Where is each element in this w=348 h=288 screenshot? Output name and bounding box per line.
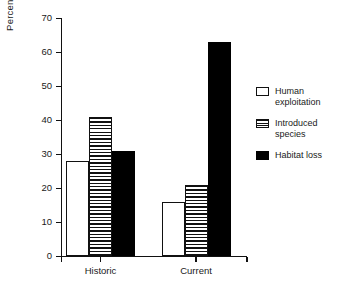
x-axis-tick	[100, 257, 101, 262]
legend-item-introduced-species: Introduced species	[256, 118, 348, 139]
legend-swatch-striped-icon	[256, 119, 269, 128]
bar-current-introduced-species	[185, 185, 208, 256]
chart-legend: Human exploitation Introduced species Ha…	[256, 86, 348, 172]
y-axis-tick-label: 0	[26, 251, 52, 261]
legend-label: Human exploitation	[275, 86, 321, 107]
y-axis-tick-label: 50	[26, 81, 52, 91]
x-axis-end-tick	[61, 257, 62, 262]
legend-swatch-black-icon	[256, 151, 269, 160]
y-axis-tick	[56, 154, 62, 155]
y-axis-tick	[56, 18, 62, 19]
y-axis-tick-label: 10	[26, 217, 52, 227]
y-axis-tick	[56, 188, 62, 189]
bar-chart-figure: Percent of species 010203040506070Histor…	[0, 0, 348, 288]
bar-historic-habitat-loss	[112, 151, 135, 256]
bar-historic-human-exploitation	[66, 161, 89, 256]
y-axis-tick	[56, 86, 62, 87]
y-axis-tick	[56, 222, 62, 223]
bar-historic-introduced-species	[89, 117, 112, 256]
y-axis-tick	[56, 52, 62, 53]
y-axis-tick-label: 30	[26, 149, 52, 159]
legend-label: Habitat loss	[275, 150, 322, 161]
legend-label: Introduced species	[275, 118, 318, 139]
x-axis-end-tick	[246, 257, 247, 262]
y-axis-tick-label: 20	[26, 183, 52, 193]
y-axis-tick	[56, 120, 62, 121]
y-axis-tick-label: 60	[26, 47, 52, 57]
legend-item-habitat-loss: Habitat loss	[256, 150, 348, 161]
legend-item-human-exploitation: Human exploitation	[256, 86, 348, 107]
bar-current-human-exploitation	[162, 202, 185, 256]
y-axis-label: Percent of species	[4, 0, 15, 60]
y-axis-tick-label: 70	[26, 13, 52, 23]
x-axis-tick-label: Current	[161, 265, 231, 276]
legend-swatch-white-icon	[256, 87, 269, 96]
x-axis-tick	[195, 257, 196, 262]
y-axis-tick-label: 40	[26, 115, 52, 125]
x-axis-tick-label: Historic	[66, 265, 136, 276]
bar-current-habitat-loss	[208, 42, 231, 256]
